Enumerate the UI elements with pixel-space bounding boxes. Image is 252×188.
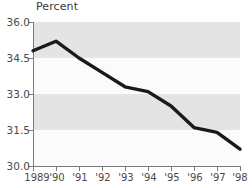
y-tick-315: 31.5: [0, 124, 30, 136]
x-tick-1995: '95: [164, 172, 179, 183]
y-tick-36: 36.0: [0, 16, 30, 28]
y-tick-30: 30.0: [0, 160, 30, 172]
line-chart: Percent: [0, 0, 252, 188]
x-tick-1992: '92: [95, 172, 110, 183]
x-tick-1994: '94: [141, 172, 156, 183]
chart-canvas: [0, 0, 252, 188]
y-tick-33: 33.0: [0, 88, 30, 100]
y-tick-345: 34.5: [0, 52, 30, 64]
x-tick-1990: '90: [49, 172, 64, 183]
x-tick-1993: '93: [118, 172, 133, 183]
x-tick-1996: '96: [187, 172, 202, 183]
x-tick-1997: '97: [210, 172, 225, 183]
x-tick-1991: '91: [72, 172, 87, 183]
x-tick-1989: 1989: [24, 172, 49, 183]
background-bands: [33, 22, 240, 166]
x-tick-1998: '98: [232, 172, 247, 183]
